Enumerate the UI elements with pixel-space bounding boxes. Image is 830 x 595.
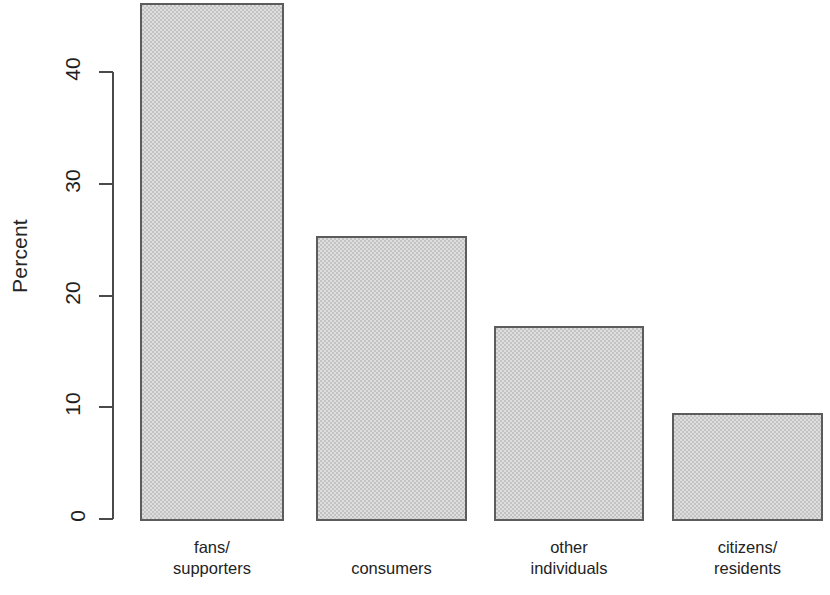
y-axis-tick-label-text: 0 <box>66 510 90 522</box>
y-axis-tick-label-text: 40 <box>60 57 84 80</box>
y-axis-tick <box>99 183 113 185</box>
y-axis-tick-label: 10 <box>0 392 84 416</box>
y-axis-tick <box>99 71 113 73</box>
y-axis-tick <box>99 406 113 408</box>
bar <box>494 326 644 521</box>
bar <box>140 3 284 521</box>
y-axis-tick-label: 20 <box>0 281 84 305</box>
y-axis-tick-label: 30 <box>0 169 84 193</box>
bar <box>316 236 467 521</box>
y-axis-tick-label-text: 30 <box>60 169 84 192</box>
bar-chart: Percent 010203040 fans/ supportersconsum… <box>0 0 830 595</box>
y-axis-tick-label: 40 <box>0 57 84 81</box>
x-axis-label: citizens/ residents <box>632 537 830 579</box>
y-axis-tick-label-text: 20 <box>60 281 84 304</box>
y-axis-tick-label-text: 10 <box>60 393 84 416</box>
y-axis-tick <box>99 295 113 297</box>
y-axis-tick-label: 0 <box>0 504 84 528</box>
y-axis-tick <box>99 518 113 520</box>
bar <box>672 413 823 521</box>
